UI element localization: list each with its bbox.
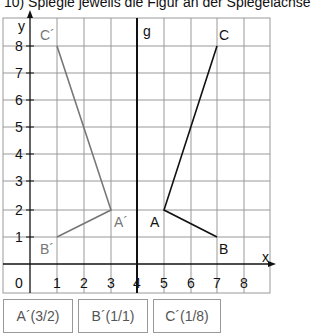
svg-text:1: 1	[53, 275, 61, 291]
svg-text:5: 5	[15, 119, 23, 135]
svg-text:4: 4	[15, 146, 23, 162]
label-A: A	[150, 214, 160, 230]
label-B: B	[219, 241, 228, 257]
svg-text:8: 8	[240, 275, 248, 291]
svg-text:7: 7	[213, 275, 221, 291]
label-B-prime: B´	[40, 241, 54, 257]
answer-box-c-prime: C´(1/8)	[153, 299, 221, 333]
coordinate-grid: y x g 876 543 21 0 123 456 78 C A B C´ A…	[0, 0, 278, 300]
svg-text:8: 8	[15, 38, 23, 54]
label-C: C	[219, 27, 229, 43]
svg-text:5: 5	[160, 275, 168, 291]
label-A-prime: A´	[114, 214, 128, 230]
svg-text:4: 4	[133, 275, 141, 291]
x-axis-label: x	[262, 249, 269, 265]
svg-text:2: 2	[80, 275, 88, 291]
y-axis-label: y	[18, 18, 25, 34]
y-axis-arrow-icon	[27, 10, 33, 18]
label-C-prime: C´	[40, 27, 55, 43]
svg-text:3: 3	[107, 275, 115, 291]
svg-text:1: 1	[15, 229, 23, 245]
svg-text:2: 2	[15, 202, 23, 218]
svg-text:6: 6	[15, 92, 23, 108]
svg-text:6: 6	[187, 275, 195, 291]
svg-text:7: 7	[15, 65, 23, 81]
mirror-label: g	[143, 23, 151, 39]
answer-box-a-prime: A´(3/2)	[3, 299, 73, 333]
answer-box-b-prime: B´(1/1)	[78, 299, 148, 333]
svg-text:3: 3	[15, 173, 23, 189]
x-axis-arrow-icon	[268, 261, 276, 267]
origin-label: 0	[15, 275, 23, 291]
